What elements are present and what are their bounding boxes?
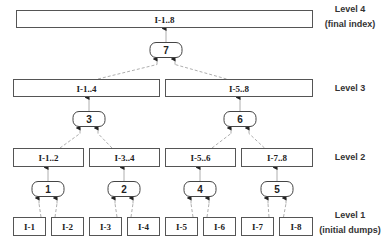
- merge-node: 2: [108, 182, 140, 197]
- input-edge: [98, 65, 157, 80]
- input-edge: [55, 204, 57, 218]
- index-box-label: I-3: [100, 222, 111, 232]
- level-title: Level 4: [335, 4, 366, 14]
- merge-node: 1: [32, 182, 64, 197]
- merge-tree-diagram: I-1..8I-1..4I-5..8I-1..2I-3..4I-5..6I-7.…: [0, 0, 389, 249]
- merge-node: 3: [73, 112, 105, 127]
- input-edge: [191, 204, 193, 218]
- index-box-label: I-1..8: [155, 15, 175, 25]
- index-box-label: I-8: [291, 222, 302, 232]
- index-box: I-1..8: [17, 11, 313, 28]
- index-box-label: I-5..8: [229, 84, 249, 94]
- merge-node: 6: [224, 112, 256, 127]
- level-subtitle: (initial dumps): [319, 225, 381, 235]
- index-box: I-3: [90, 218, 122, 236]
- index-box: I-1..2: [14, 149, 84, 167]
- index-box-label: I-5: [176, 222, 187, 232]
- level-label-level2: Level 2: [335, 152, 366, 162]
- input-edge: [249, 134, 265, 149]
- diagram-canvas: I-1..8I-1..4I-5..8I-1..2I-3..4I-5..6I-7.…: [0, 0, 389, 249]
- index-box-label: I-6: [214, 222, 225, 232]
- merge-node: 7: [150, 43, 182, 58]
- merge-node-label: 4: [197, 184, 203, 195]
- merge-nodes: 1245367: [32, 43, 293, 197]
- input-edge: [268, 204, 269, 218]
- merge-node-label: 6: [237, 114, 243, 125]
- index-box: I-7..8: [242, 149, 313, 167]
- level-subtitle: (final index): [325, 19, 376, 29]
- index-box-label: I-3..4: [115, 153, 135, 163]
- input-edge: [207, 204, 209, 218]
- index-box-label: I-7: [252, 222, 263, 232]
- input-edge: [284, 204, 287, 218]
- input-edge: [212, 134, 231, 149]
- level-label-level4: Level 4(final index): [325, 4, 376, 29]
- level-title: Level 3: [335, 83, 366, 93]
- index-box: I-5..6: [166, 149, 236, 167]
- input-edge: [60, 134, 80, 149]
- input-edge: [175, 65, 227, 80]
- index-box: I-3..4: [90, 149, 160, 167]
- merge-node-label: 7: [163, 45, 169, 56]
- level-label-level3: Level 3: [335, 83, 366, 93]
- level-labels: Level 4(final index)Level 3Level 2Level …: [319, 4, 381, 235]
- merge-node: 5: [261, 182, 293, 197]
- merge-node: 4: [184, 182, 216, 197]
- merge-node-label: 3: [86, 114, 92, 125]
- index-box-label: I-4: [138, 222, 149, 232]
- index-box: I-7: [242, 218, 274, 236]
- index-box-label: I-1: [24, 222, 35, 232]
- level-label-level1: Level 1(initial dumps): [319, 210, 381, 235]
- input-edge: [131, 204, 133, 218]
- level-title: Level 1: [335, 210, 366, 220]
- index-box: I-4: [128, 218, 160, 236]
- index-box-label: I-2: [62, 222, 73, 232]
- merge-node-label: 2: [121, 184, 127, 195]
- index-box: I-6: [204, 218, 236, 236]
- input-edge: [98, 134, 112, 149]
- index-box-label: I-7..8: [267, 153, 287, 163]
- index-box-label: I-1..4: [77, 84, 97, 94]
- index-box: I-2: [52, 218, 84, 236]
- index-box: I-8: [280, 218, 313, 236]
- index-box-label: I-1..2: [39, 153, 59, 163]
- index-box: I-1: [14, 218, 46, 236]
- merge-node-label: 1: [45, 184, 51, 195]
- index-box-label: I-5..6: [191, 153, 211, 163]
- index-box: I-5: [166, 218, 198, 236]
- merge-node-label: 5: [274, 184, 280, 195]
- input-edge: [39, 204, 41, 218]
- index-box: I-5..8: [166, 80, 313, 97]
- input-edge: [115, 204, 117, 218]
- index-box: I-1..4: [14, 80, 160, 97]
- level-title: Level 2: [335, 152, 366, 162]
